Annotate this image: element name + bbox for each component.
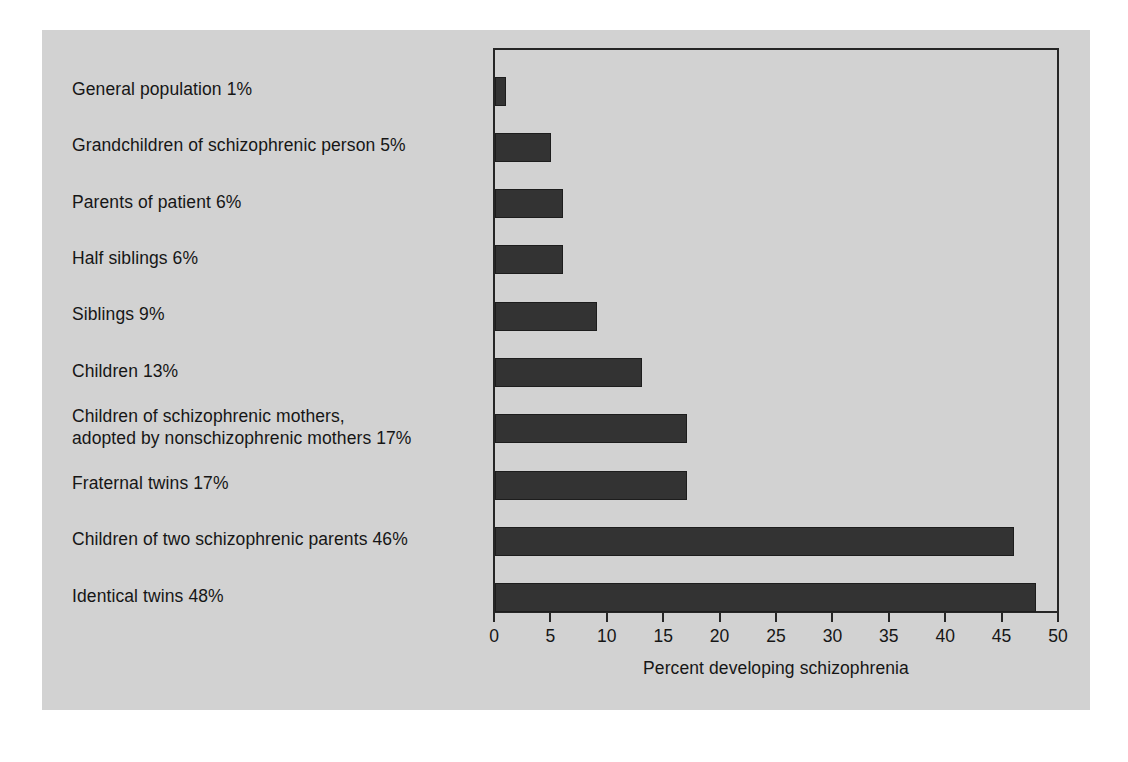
x-tick-label: 35 <box>869 626 909 647</box>
x-tick-mark <box>662 613 664 622</box>
figure-panel: General population 1%Grandchildren of sc… <box>42 30 1090 710</box>
x-tick-mark <box>944 613 946 622</box>
bar <box>495 245 563 274</box>
figure-root: General population 1%Grandchildren of sc… <box>0 0 1128 762</box>
bar <box>495 471 687 500</box>
bar <box>495 358 642 387</box>
x-tick-label: 25 <box>756 626 796 647</box>
x-tick-mark <box>493 613 495 622</box>
category-label: General population 1% <box>72 78 492 100</box>
x-tick-mark <box>775 613 777 622</box>
x-tick-mark <box>549 613 551 622</box>
x-tick-label: 15 <box>643 626 683 647</box>
x-tick-label: 0 <box>474 626 514 647</box>
category-label: Siblings 9% <box>72 303 492 325</box>
x-tick-label: 5 <box>530 626 570 647</box>
category-label: Children of schizophrenic mothers, adopt… <box>72 405 492 449</box>
category-label: Parents of patient 6% <box>72 191 492 213</box>
x-tick-label: 40 <box>925 626 965 647</box>
bar <box>495 77 506 106</box>
category-label: Children 13% <box>72 360 492 382</box>
category-label: Fraternal twins 17% <box>72 472 492 494</box>
bar <box>495 583 1036 612</box>
category-label: Half siblings 6% <box>72 247 492 269</box>
plot-area <box>493 48 1059 613</box>
x-axis-title: Percent developing schizophrenia <box>493 658 1059 679</box>
x-tick-mark <box>606 613 608 622</box>
category-label: Identical twins 48% <box>72 585 492 607</box>
x-tick-mark <box>1001 613 1003 622</box>
x-tick-label: 30 <box>812 626 852 647</box>
x-tick-mark <box>1057 613 1059 622</box>
x-tick-label: 50 <box>1038 626 1078 647</box>
category-label: Children of two schizophrenic parents 46… <box>72 528 492 550</box>
category-label-column: General population 1%Grandchildren of sc… <box>42 30 490 710</box>
bar <box>495 133 551 162</box>
x-tick-mark <box>888 613 890 622</box>
bar <box>495 527 1014 556</box>
x-tick-label: 20 <box>700 626 740 647</box>
x-tick-mark <box>831 613 833 622</box>
bar <box>495 302 597 331</box>
category-label: Grandchildren of schizophrenic person 5% <box>72 134 492 156</box>
bar <box>495 189 563 218</box>
x-tick-label: 45 <box>982 626 1022 647</box>
x-tick-label: 10 <box>587 626 627 647</box>
x-tick-mark <box>719 613 721 622</box>
bar <box>495 414 687 443</box>
